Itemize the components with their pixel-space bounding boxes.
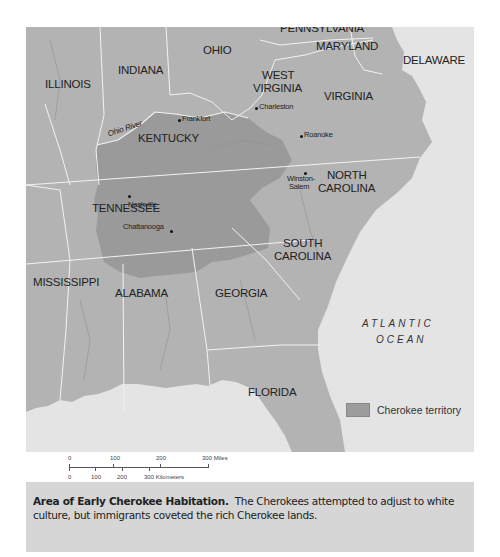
scale-mile-200: 200 [156,455,166,461]
ocean-label: OCEAN [376,334,427,345]
scale-km-300: 300 Kilometers [144,474,184,480]
map-frame: ILLINOISINDIANAOHIOPENNSYLVANIAMARYLANDD… [26,27,474,452]
map-caption: Area of Early Cherokee Habitation. The C… [26,482,474,552]
state-label: NORTH [327,169,367,181]
ocean-label: ATLANTIC [362,318,434,329]
city-marker-icon [170,230,173,233]
state-label: VIRGINIA [324,90,373,102]
scale-km-0: 0 [68,474,71,480]
state-label: KENTUCKY [138,132,199,144]
cherokee-territory-swatch [346,403,370,417]
scale-km-100: 100 [91,474,101,480]
state-label: MARYLAND [316,40,378,52]
state-label: CAROLINA [274,250,331,262]
state-label: OHIO [203,44,232,56]
state-label: CAROLINA [318,182,375,194]
state-label: SOUTH [283,237,322,249]
state-label: VIRGINIA [253,82,302,94]
city-label: Roanoke [304,130,333,139]
state-label: DELAWARE [403,54,465,66]
scale-km-200: 200 [117,474,127,480]
city-marker-icon [128,195,131,198]
city-label: Nashville [128,200,157,209]
state-label: INDIANA [118,64,163,76]
city-label: Frankfort [182,114,210,123]
city-marker-icon [178,119,181,122]
state-label: PENNSYLVANIA [280,27,364,34]
state-label: FLORIDA [248,386,296,398]
city-marker-icon [300,135,303,138]
city-marker-icon [255,107,258,110]
state-label: ILLINOIS [45,78,91,90]
state-label: GEORGIA [215,287,267,299]
caption-title: Area of Early Cherokee Habitation. [33,495,229,507]
city-label: Salem [289,182,309,191]
city-label: Chattanooga [123,222,164,231]
scale-mile-300: 300 Miles [202,455,228,461]
state-label: MISSISSIPPI [33,276,99,288]
map-legend: Cherokee territory [346,403,461,417]
state-label: WEST [262,69,294,81]
scale-mile-0: 0 [68,455,71,461]
city-label: Charleston [259,102,293,111]
state-label: ALABAMA [115,287,168,299]
legend-label: Cherokee territory [377,404,461,416]
scale-mile-100: 100 [110,455,120,461]
